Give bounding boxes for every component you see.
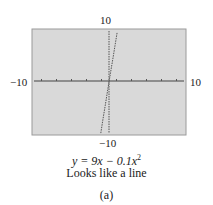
y-max-label: 10	[100, 14, 111, 26]
y-min-label: −10	[99, 137, 116, 149]
subfigure-label: (a)	[0, 189, 213, 202]
equation-exponent: 2	[137, 153, 141, 162]
caption: Looks like a line	[0, 167, 213, 180]
x-min-label: −10	[10, 76, 27, 88]
x-max-label: 10	[190, 76, 201, 88]
